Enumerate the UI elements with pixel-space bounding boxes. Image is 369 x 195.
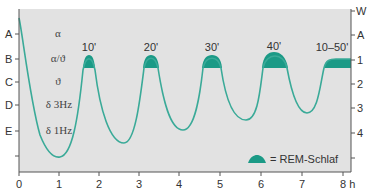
legend-label: = REM-Schlaf xyxy=(270,153,339,165)
left-tick-a: A xyxy=(5,28,13,40)
rem-label-1: 10' xyxy=(82,41,96,53)
right-tick-a: A xyxy=(357,29,365,41)
right-tick-4: 4 xyxy=(357,127,363,139)
right-tick-1: 1 xyxy=(357,54,363,66)
band-label-alpha: α xyxy=(55,27,61,39)
rem-label-3: 30' xyxy=(205,41,219,53)
x-tick-7: 7 xyxy=(299,178,305,190)
x-tick-2: 2 xyxy=(96,178,102,190)
x-tick-8: 8 h xyxy=(340,178,355,190)
band-label-theta: ϑ xyxy=(55,75,61,87)
right-tick-3: 3 xyxy=(357,102,363,114)
rem-label-4: 40' xyxy=(267,40,281,52)
rem-label-2: 20' xyxy=(144,41,158,53)
band-label-alpha-theta: α/ϑ xyxy=(51,52,66,64)
left-tick-b: B xyxy=(5,53,12,65)
left-tick-d: D xyxy=(5,99,13,111)
x-tick-6: 6 xyxy=(258,178,264,190)
x-tick-3: 3 xyxy=(136,178,142,190)
right-tick-2: 2 xyxy=(357,78,363,90)
band-label-delta-1hz: δ 1Hz xyxy=(46,124,72,136)
right-tick-w: W xyxy=(356,5,367,17)
x-tick-1: 1 xyxy=(56,178,62,190)
band-label-delta-3hz: δ 3Hz xyxy=(46,98,72,110)
left-tick-e: E xyxy=(5,125,12,137)
x-tick-5: 5 xyxy=(217,178,223,190)
x-tick-0: 0 xyxy=(16,178,22,190)
rem-label-5: 10–50' xyxy=(316,41,349,53)
x-tick-4: 4 xyxy=(176,178,182,190)
left-tick-c: C xyxy=(5,76,13,88)
sleep-cycle-chart: A B C D E W A 1 2 3 4 0 1 2 3 4 5 6 7 xyxy=(0,0,369,195)
